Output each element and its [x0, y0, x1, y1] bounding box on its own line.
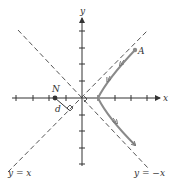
- asymptote-y-equals-neg-x: [18, 30, 148, 168]
- x-axis-label: x: [163, 93, 168, 103]
- hyperbola-diagram: y x A N d y = x y = −x: [0, 0, 174, 185]
- point-n-label: N: [51, 84, 61, 94]
- asymptote-y-equals-x: [8, 30, 148, 172]
- point-a-label: A: [137, 46, 145, 56]
- y-axis-label: y: [79, 6, 86, 16]
- point-a: [133, 48, 137, 52]
- asymptote-label-y-equals-neg-x: y = −x: [133, 168, 165, 178]
- right-angle-marker-d: [67, 105, 73, 111]
- asymptote-label-y-equals-x: y = x: [7, 168, 31, 178]
- distance-label: d: [55, 104, 61, 114]
